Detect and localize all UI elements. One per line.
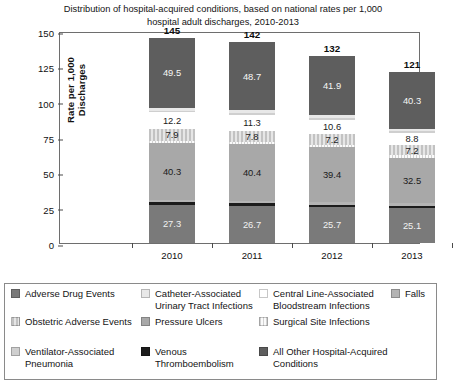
y-tick-150: 150 [24, 28, 54, 39]
segment-ssi-2010 [149, 141, 195, 144]
legend-item-vte[interactable]: Venous Thromboembolism [141, 346, 259, 371]
y-tick-100: 100 [24, 98, 54, 109]
segment-clabsi-2013: 8.8 [389, 133, 435, 145]
segment-falls-2013 [389, 203, 435, 206]
segment-value-label: 7.8 [245, 132, 258, 141]
segment-vte-2010 [149, 202, 195, 204]
segment-cauti-2012 [309, 115, 355, 118]
segment-vap-2010 [149, 111, 195, 113]
x-axis-label-2013: 2013 [382, 250, 442, 261]
legend-item-cauti[interactable]: Catheter-Associated Urinary Tract Infect… [141, 288, 259, 313]
legend-label: Falls [405, 288, 425, 300]
x-axis-label-2010: 2010 [142, 250, 202, 261]
segment-clabsi-2011: 11.3 [229, 115, 275, 131]
segment-value-label: 10.6 [323, 122, 341, 131]
segment-other-2010: 49.5 [149, 38, 195, 108]
x-tick-2011 [212, 243, 213, 248]
bar-total-2013: 121 [404, 59, 420, 70]
legend-swatch-cauti-icon [141, 289, 150, 298]
segment-ssi-2011 [229, 142, 275, 145]
segment-falls-2012 [309, 202, 355, 205]
legend-item-pu[interactable]: Pressure Ulcers [141, 316, 259, 328]
legend-label: Surgical Site Infections [273, 316, 370, 328]
legend-swatch-obs-icon [11, 317, 20, 326]
x-axis-label-2012: 2012 [302, 250, 362, 261]
segment-value-label: 11.3 [243, 118, 261, 127]
segment-ado-2012: 25.7 [309, 207, 355, 243]
legend-item-other[interactable]: All Other Hospital-Acquired Conditions [259, 346, 434, 371]
legend-swatch-vte-icon [141, 347, 150, 356]
segment-ado-2013: 25.1 [389, 208, 435, 243]
legend-item-vap[interactable]: Ventilator-Associated Pneumonia [11, 346, 139, 371]
plot-area: Rate per 1,000 Discharges 02550751001251… [59, 32, 420, 244]
bar-2012[interactable]: 25.739.47.210.641.9 [309, 56, 355, 243]
legend-item-falls[interactable]: Falls [391, 288, 439, 300]
segment-ado-2011: 26.7 [229, 206, 275, 243]
x-axis-label-2011: 2011 [222, 250, 282, 261]
legend-swatch-pu-icon [141, 317, 150, 326]
segment-clabsi-2012: 10.6 [309, 120, 355, 135]
legend-swatch-other-icon [259, 347, 268, 356]
segment-value-label: 32.5 [403, 176, 421, 185]
legend-item-ssi[interactable]: Surgical Site Infections [259, 316, 389, 328]
segment-value-label: 8.8 [405, 134, 418, 143]
segment-obs-2013: 7.2 [389, 145, 435, 155]
segment-value-label: 25.7 [323, 220, 341, 229]
x-tick-2012 [292, 243, 293, 248]
segment-other-2013: 40.3 [389, 72, 435, 129]
segment-pu-2013: 32.5 [389, 158, 435, 204]
legend-label: Adverse Drug Events [25, 288, 115, 300]
legend-item-ado[interactable]: Adverse Drug Events [11, 288, 139, 300]
bar-2011[interactable]: 26.740.47.811.348.7 [229, 42, 275, 243]
legend-label: Venous Thromboembolism [155, 346, 259, 371]
segment-value-label: 27.3 [163, 219, 181, 228]
y-tick-125: 125 [24, 63, 54, 74]
segment-falls-2011 [229, 201, 275, 204]
segment-value-label: 12.2 [163, 116, 181, 125]
segment-clabsi-2010: 12.2 [149, 112, 195, 129]
legend-swatch-ado-icon [11, 289, 20, 298]
segment-value-label: 7.2 [325, 135, 338, 144]
segment-ssi-2012 [309, 145, 355, 147]
segment-value-label: 26.7 [243, 220, 261, 229]
segment-other-2011: 48.7 [229, 42, 275, 110]
legend-item-obs[interactable]: Obstetric Adverse Events [11, 316, 139, 328]
segment-pu-2011: 40.4 [229, 144, 275, 200]
bar-total-2010: 145 [164, 25, 180, 36]
segment-obs-2011: 7.8 [229, 131, 275, 142]
chart-legend: Adverse Drug EventsCatheter-Associated U… [4, 283, 437, 380]
segment-vte-2013 [389, 206, 435, 208]
segment-ssi-2013 [389, 155, 435, 157]
x-tick-2010 [132, 243, 133, 248]
segment-value-label: 39.4 [323, 170, 341, 179]
segment-obs-2010: 7.9 [149, 129, 195, 140]
legend-swatch-falls-icon [391, 289, 400, 298]
segment-cauti-2010 [149, 108, 195, 111]
legend-label: All Other Hospital-Acquired Conditions [273, 346, 434, 371]
legend-item-clabsi[interactable]: Central Line-Associated Bloodstream Infe… [259, 288, 389, 313]
chart-title-line-1: Distribution of hospital-acquired condit… [28, 3, 418, 16]
chart-title-line-2: hospital adult discharges, 2010-2013 [28, 16, 418, 29]
segment-ado-2010: 27.3 [149, 205, 195, 243]
segment-pu-2010: 40.3 [149, 143, 195, 200]
y-tick-75: 75 [24, 134, 54, 145]
bar-2010[interactable]: 27.340.37.912.249.5 [149, 38, 195, 243]
segment-value-label: 40.3 [163, 167, 181, 176]
legend-label: Catheter-Associated Urinary Tract Infect… [155, 288, 259, 313]
segment-value-label: 40.3 [403, 96, 421, 105]
bar-2013[interactable]: 25.132.57.28.840.3 [389, 72, 435, 243]
segment-vap-2012 [309, 118, 355, 120]
legend-swatch-vap-icon [11, 347, 20, 356]
legend-label: Ventilator-Associated Pneumonia [25, 346, 139, 371]
segment-value-label: 7.2 [405, 146, 418, 155]
segment-value-label: 48.7 [243, 72, 261, 81]
segment-value-label: 41.9 [323, 81, 341, 90]
y-tick-25: 25 [24, 204, 54, 215]
segment-falls-2010 [149, 200, 195, 203]
segment-cauti-2011 [229, 110, 275, 113]
segment-other-2012: 41.9 [309, 56, 355, 115]
legend-label: Central Line-Associated Bloodstream Infe… [273, 288, 389, 313]
segment-value-label: 25.1 [403, 221, 421, 230]
chart-title: Distribution of hospital-acquired condit… [28, 3, 418, 28]
